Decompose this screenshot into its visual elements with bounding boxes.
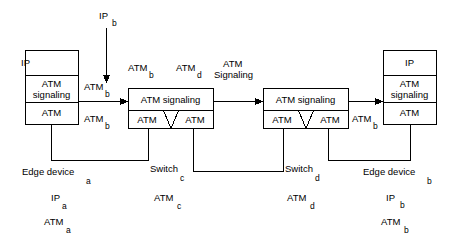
- bottom-edge-device-a-subscript: a: [86, 176, 91, 187]
- bottom-edge-device-b-label: Edge device: [363, 166, 415, 177]
- atm-b-incoming-label: ATM: [84, 81, 103, 92]
- edge-device-left-ip-text: IP: [0, 57, 52, 68]
- atm-d-above-switch-c-subscript: d: [197, 70, 202, 81]
- switch-d-port-right-text: ATM: [314, 114, 346, 125]
- atm-b-right-link-label: ATM: [352, 113, 371, 124]
- bottom-ip-a-label: IP: [51, 192, 60, 203]
- atm-d-above-switch-c-label: ATM: [176, 62, 195, 73]
- atm-b-above-switch-c-label: ATM: [128, 62, 147, 73]
- bottom-edge-device-a-label: Edge device: [22, 166, 74, 177]
- bracket-switch-c-to-switch-d: [194, 129, 284, 172]
- atm-signaling-center-label-line2: Signaling: [214, 69, 253, 80]
- diagram-canvas: IP ATM signaling ATM IP ATM signaling AT…: [0, 0, 463, 247]
- bottom-atm-b-label: ATM: [381, 216, 400, 227]
- bottom-atm-d-subscript: d: [310, 201, 315, 212]
- bottom-ip-b-subscript: b: [400, 200, 405, 211]
- atm-signaling-center-label-line1: ATM: [223, 58, 242, 69]
- atm-b-above-switch-c-subscript: b: [149, 70, 154, 81]
- bottom-switch-d-label: Switch: [285, 163, 313, 174]
- bottom-atm-c-label: ATM: [154, 192, 173, 203]
- bottom-ip-b-label: IP: [386, 192, 395, 203]
- edge-device-left-signaling-text-line2: signaling: [25, 89, 78, 100]
- atm-b-incoming-subscript: b: [105, 89, 110, 100]
- atm-b-lower-left-label: ATM: [84, 113, 103, 124]
- bottom-edge-device-b-subscript: b: [427, 176, 432, 187]
- edge-device-right-ip-text: IP: [383, 57, 436, 68]
- bottom-atm-b-subscript: b: [404, 225, 409, 236]
- bottom-switch-c-subscript: c: [180, 173, 184, 184]
- switch-d-v-connector: [299, 111, 314, 129]
- ip-b-incoming-subscript: b: [112, 18, 117, 29]
- edge-device-right-atm-text: ATM: [383, 107, 436, 118]
- atm-b-lower-left-subscript: b: [105, 121, 110, 132]
- switch-d-signaling-text: ATM signaling: [263, 94, 348, 105]
- edge-device-right-signaling-text-line1: ATM: [383, 78, 436, 89]
- ip-b-incoming-label: IP: [99, 10, 108, 21]
- bottom-switch-d-subscript: d: [315, 173, 320, 184]
- bottom-atm-d-label: ATM: [287, 192, 306, 203]
- edge-device-right-signaling-text-line2: signaling: [383, 89, 436, 100]
- edge-device-left-atm-text: ATM: [25, 107, 78, 118]
- bottom-ip-a-subscript: a: [62, 201, 67, 212]
- bottom-switch-c-label: Switch: [150, 163, 178, 174]
- bottom-atm-a-subscript: a: [66, 225, 71, 236]
- switch-d-port-left-text: ATM: [266, 114, 298, 125]
- ip-b-incoming-arrowhead: [103, 75, 110, 84]
- bracket-switch-d-to-edge-b: [329, 125, 411, 161]
- bottom-atm-c-subscript: c: [177, 201, 181, 212]
- switch-c-v-connector: [164, 111, 179, 129]
- bottom-atm-a-label: ATM: [44, 216, 63, 227]
- atm-b-right-link-subscript: b: [373, 121, 378, 132]
- switch-c-signaling-text: ATM signaling: [128, 94, 213, 105]
- switch-c-port-right-text: ATM: [179, 114, 211, 125]
- edge-device-left-signaling-text-line1: ATM: [25, 78, 78, 89]
- diagram-vector-layer: [0, 0, 463, 247]
- switch-c-port-left-text: ATM: [131, 114, 163, 125]
- bracket-edge-a-to-switch-c: [52, 125, 149, 161]
